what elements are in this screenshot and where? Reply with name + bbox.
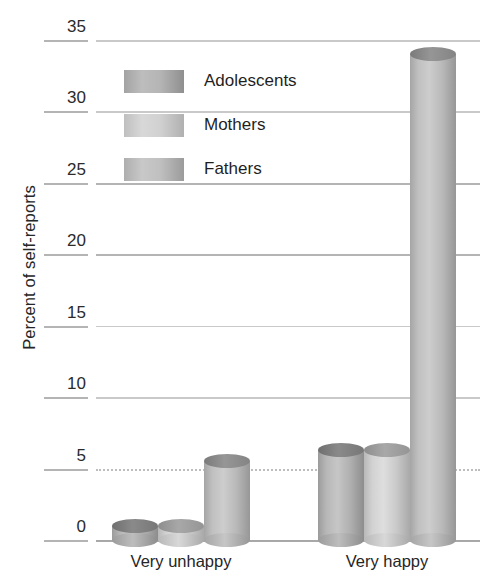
bar-bottom-ellipse (318, 533, 364, 547)
legend-label-adolescents: Adolescents (204, 71, 297, 91)
bar-adolescents-very-unhappy (112, 519, 158, 540)
x-axis-label-very-unhappy: Very unhappy (131, 552, 232, 571)
bar-body (410, 54, 456, 540)
y-tick-mark-30 (44, 111, 88, 113)
y-tick-mark-5 (44, 469, 88, 471)
y-tick-mark-0 (44, 540, 88, 542)
bar-bottom-ellipse (112, 533, 158, 547)
bar-mothers-very-unhappy (158, 519, 204, 540)
y-tick-mark-25 (44, 183, 88, 185)
bar-fathers-very-unhappy (204, 454, 250, 540)
bar-body (364, 450, 410, 540)
bar-body (204, 461, 250, 540)
bar-top-ellipse (318, 443, 364, 457)
bar-bottom-ellipse (364, 533, 410, 547)
legend-item-adolescents: Adolescents (124, 64, 297, 98)
y-tick-mark-10 (44, 397, 88, 399)
bar-top-ellipse (158, 519, 204, 533)
y-tick-mark-15 (44, 326, 88, 328)
y-tick-label-15: 15 (40, 303, 86, 323)
bar-bottom-ellipse (158, 533, 204, 547)
bar-mothers-very-happy (364, 443, 410, 540)
bar-adolescents-very-happy (318, 443, 364, 540)
legend-swatch-fathers-icon (124, 158, 184, 181)
y-tick-label-20: 20 (40, 231, 86, 251)
legend-swatch-mothers-icon (124, 114, 184, 137)
y-axis-title: Percent of self-reports (20, 153, 39, 383)
bar-bottom-ellipse (204, 533, 250, 547)
y-tick-label-25: 25 (40, 160, 86, 180)
y-tick-label-30: 30 (40, 88, 86, 108)
bar-bottom-ellipse (410, 533, 456, 547)
bar-chart: Percent of self-reports 05101520253035 V… (0, 0, 502, 582)
legend-swatch-adolescents-icon (124, 70, 184, 93)
y-tick-mark-35 (44, 40, 88, 42)
legend-item-mothers: Mothers (124, 108, 297, 142)
bar-top-ellipse (364, 443, 410, 457)
legend-label-mothers: Mothers (204, 115, 265, 135)
legend-item-fathers: Fathers (124, 152, 297, 186)
chart-legend: Adolescents Mothers Fathers (124, 64, 297, 196)
y-tick-mark-20 (44, 254, 88, 256)
y-tick-label-35: 35 (40, 17, 86, 37)
bar-fathers-very-happy (410, 47, 456, 540)
y-tick-label-5: 5 (40, 446, 86, 466)
bar-top-ellipse (112, 519, 158, 533)
y-tick-label-0: 0 (40, 517, 86, 537)
x-axis-label-very-happy: Very happy (346, 552, 429, 571)
legend-label-fathers: Fathers (204, 159, 262, 179)
bar-body (318, 450, 364, 540)
y-tick-label-10: 10 (40, 374, 86, 394)
